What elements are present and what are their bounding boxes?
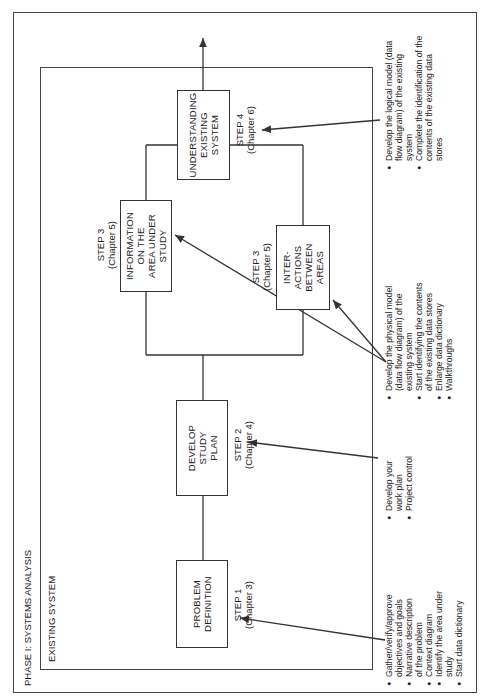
step2-box-label: DEVELOP STUDY PLAN — [186, 425, 219, 471]
note: Develop the physical model (data flow di… — [384, 275, 414, 400]
step4-box: UNDERSTANDING EXISTING SYSTEM — [177, 90, 230, 180]
diagram-canvas: PHASE I: SYSTEMS ANALYSIS EXISTING SYSTE… — [0, 0, 487, 700]
step4-chapter: (Chapter 6) — [245, 95, 256, 165]
step1-box-label: PROBLEM DEFINITION — [191, 576, 213, 632]
note: Develop the logical model (data flow dia… — [384, 30, 414, 170]
note: Start data dictionary — [454, 591, 464, 686]
note: Complete the identification of the conte… — [414, 30, 444, 170]
step3-interactions-chapter: (Chapter 5) — [261, 232, 272, 302]
step3-interactions-label: STEP 3(Chapter 5) — [250, 232, 272, 302]
step1-notes: Gather/verify/approve objectives and goa… — [384, 591, 464, 686]
step4-notes: Develop the logical model (data flow dia… — [384, 30, 444, 170]
step3-info-box: INFORMATION ON THE AREA UNDER STUDY — [120, 200, 172, 292]
step2-label: STEP 2(Chapter 4) — [232, 410, 254, 480]
step3-info-box-label: INFORMATION ON THE AREA UNDER STUDY — [124, 212, 168, 280]
step3-interactions-number: STEP 3 — [250, 232, 261, 302]
step2-number: STEP 2 — [232, 410, 243, 480]
note: Project control — [404, 445, 414, 520]
step1-number: STEP 1 — [232, 570, 243, 640]
step2-notes: Develop your work plan Project control — [384, 445, 414, 520]
note: Identify the area under study — [434, 591, 454, 686]
step3-info-label: STEP 3(Chapter 5) — [95, 210, 117, 280]
step3-interactions-box: INTER- ACTIONS BETWEEN AREAS — [276, 225, 330, 310]
note: Narrative description of the problem — [404, 591, 424, 686]
note: Context diagram — [424, 591, 434, 686]
step2-box: DEVELOP STUDY PLAN — [176, 400, 228, 496]
note: Enlarge data dictionary — [434, 275, 444, 400]
step1-chapter: (Chapter 3) — [243, 570, 254, 640]
step3-info-number: STEP 3 — [95, 210, 106, 280]
step4-label: STEP 4(Chapter 6) — [234, 95, 256, 165]
step1-label: STEP 1(Chapter 3) — [232, 570, 254, 640]
note: Start identifying the contents of the ex… — [414, 275, 434, 400]
step4-number: STEP 4 — [234, 95, 245, 165]
note: Develop your work plan — [384, 445, 404, 520]
step4-box-label: UNDERSTANDING EXISTING SYSTEM — [187, 93, 220, 178]
step2-chapter: (Chapter 4) — [243, 410, 254, 480]
note: Gather/verify/approve objectives and goa… — [384, 591, 404, 686]
note: Walkthroughs — [444, 275, 454, 400]
step3-interactions-box-label: INTER- ACTIONS BETWEEN AREAS — [281, 243, 325, 291]
step3-notes: Develop the physical model (data flow di… — [384, 275, 454, 400]
step1-box: PROBLEM DEFINITION — [176, 560, 228, 648]
step3-info-chapter: (Chapter 5) — [106, 210, 117, 280]
